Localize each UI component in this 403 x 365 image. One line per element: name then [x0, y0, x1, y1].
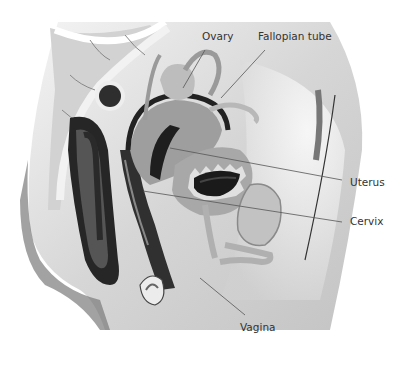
pelvic-anatomy-diagram: Ovary Fallopian tube Uterus Cervix Vagin…	[0, 0, 403, 365]
pubic-bone	[238, 184, 282, 245]
label-fallopian-tube: Fallopian tube	[258, 30, 332, 42]
bowel-loop	[95, 81, 125, 111]
rectus-muscle	[316, 90, 320, 160]
label-uterus: Uterus	[350, 176, 385, 188]
label-ovary: Ovary	[202, 30, 233, 42]
label-cervix: Cervix	[350, 215, 383, 227]
label-vagina: Vagina	[240, 321, 275, 333]
